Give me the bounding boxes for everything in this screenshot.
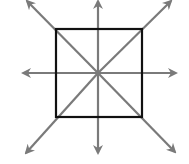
arrow-se-icon <box>98 73 175 152</box>
symmetry-lines <box>23 1 176 153</box>
arrow-ne-icon <box>98 1 171 73</box>
symmetry-diagram <box>0 0 189 164</box>
arrow-nw-icon <box>27 1 98 73</box>
arrow-sw-icon <box>26 73 98 153</box>
